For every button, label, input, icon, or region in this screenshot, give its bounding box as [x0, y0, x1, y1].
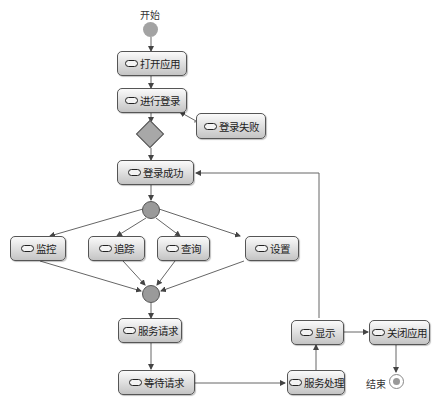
node-service-process[interactable]: 服务处理 [287, 370, 345, 395]
end-node [389, 374, 404, 389]
node-login-success[interactable]: 登录成功 [117, 160, 194, 185]
fork-node [142, 201, 160, 219]
action-icon [289, 379, 302, 386]
node-service-request[interactable]: 服务请求 [118, 318, 182, 343]
join-node [142, 285, 160, 303]
action-icon [99, 245, 112, 252]
action-icon [125, 97, 138, 104]
node-query[interactable]: 查询 [157, 236, 210, 261]
node-settings[interactable]: 设置 [245, 236, 299, 261]
action-icon [128, 169, 141, 176]
node-display[interactable]: 显示 [291, 320, 344, 345]
node-track[interactable]: 追踪 [88, 236, 145, 261]
action-icon [123, 327, 136, 334]
node-monitor[interactable]: 监控 [10, 236, 66, 261]
action-icon [166, 245, 179, 252]
action-icon [372, 329, 385, 336]
action-icon [125, 60, 138, 67]
node-login[interactable]: 进行登录 [117, 88, 187, 113]
edges [0, 0, 441, 408]
start-node [143, 22, 158, 37]
action-icon [129, 379, 142, 386]
action-icon [300, 329, 313, 336]
action-icon [255, 245, 268, 252]
start-label: 开始 [140, 7, 160, 22]
action-icon [204, 123, 217, 130]
node-close-app[interactable]: 关闭应用 [369, 320, 430, 345]
activity-diagram: 开始 打开应用 进行登录 登录失败 登录成功 监控 追踪 查询 设置 服务请求 … [0, 0, 441, 408]
action-icon [21, 245, 34, 252]
node-login-fail[interactable]: 登录失败 [196, 113, 266, 139]
node-open-app[interactable]: 打开应用 [117, 51, 187, 76]
node-wait-request[interactable]: 等待请求 [118, 370, 195, 395]
end-label: 结束 [366, 376, 386, 391]
